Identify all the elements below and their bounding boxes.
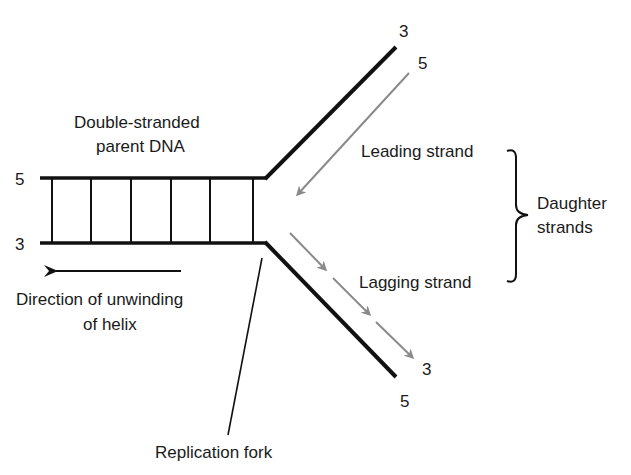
lower-template-arm [265, 242, 396, 377]
daughter-strands-brace [507, 150, 528, 281]
base-pair-rungs [52, 178, 253, 243]
parent-dna-label-line1: Double-stranded [74, 113, 200, 132]
parent-dna [40, 178, 266, 243]
parent-dna-label-line2: parent DNA [96, 137, 185, 156]
leading-strand-label: Leading strand [361, 142, 473, 161]
end-label-parent-bottom: 3 [15, 235, 24, 254]
replication-fork-diagram: 5 3 3 5 3 5 Double-stranded parent DNA L… [0, 0, 631, 475]
direction-label-line2: of helix [83, 315, 137, 334]
lagging-strand-label: Lagging strand [359, 273, 471, 292]
direction-label-line1: Direction of unwinding [16, 290, 183, 309]
lagging-strand-fragments [290, 233, 412, 357]
daughter-strands-label-line2: strands [537, 218, 593, 237]
daughter-strands-label-line1: Daughter [537, 194, 607, 213]
replication-fork-label: Replication fork [155, 443, 273, 462]
end-label-upper-template: 3 [399, 22, 408, 41]
fork-pointer-line [228, 258, 262, 435]
end-label-lower-template: 5 [400, 392, 409, 411]
end-label-upper-leading: 5 [418, 54, 427, 73]
end-label-lower-lagging: 3 [422, 360, 431, 379]
end-label-parent-top: 5 [15, 170, 24, 189]
